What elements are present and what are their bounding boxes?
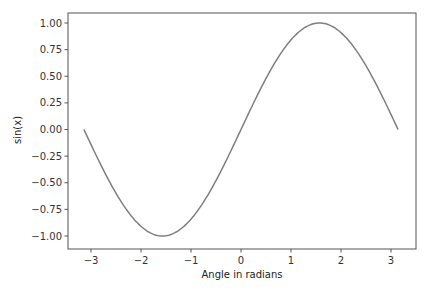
axes-frame [68, 13, 416, 249]
y-axis-ticks: 1.000.750.500.250.00−0.25−0.50−0.75−1.00 [31, 18, 68, 242]
y-tick-label: 0.25 [40, 97, 62, 108]
y-tick-label: 0.50 [40, 71, 62, 82]
sine-chart: −3−2−10123 1.000.750.500.250.00−0.25−0.5… [0, 0, 428, 303]
x-tick-label: 3 [388, 255, 394, 266]
y-tick-label: 1.00 [40, 18, 62, 29]
x-tick-label: −2 [134, 255, 149, 266]
plot-area [68, 13, 416, 249]
x-axis-label: Angle in radians [202, 269, 283, 280]
sine-curve [84, 23, 398, 236]
x-tick-label: −1 [184, 255, 199, 266]
x-tick-label: 0 [238, 255, 244, 266]
y-axis-label: sin(x) [12, 116, 23, 144]
x-axis-ticks: −3−2−10123 [84, 249, 395, 266]
y-tick-label: −1.00 [31, 231, 62, 242]
x-tick-label: 1 [288, 255, 294, 266]
x-tick-label: −3 [84, 255, 99, 266]
y-tick-label: 0.00 [40, 124, 62, 135]
x-tick-label: 2 [338, 255, 344, 266]
y-tick-label: 0.75 [40, 44, 62, 55]
y-tick-label: −0.75 [31, 204, 62, 215]
y-tick-label: −0.25 [31, 151, 62, 162]
y-tick-label: −0.50 [31, 177, 62, 188]
